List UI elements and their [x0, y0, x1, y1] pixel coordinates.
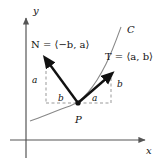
normal-horizontal-component-label: b — [58, 94, 64, 103]
tangent-vector-label: T = ⟨a, b⟩ — [105, 52, 153, 62]
point-p-label: P — [75, 115, 82, 125]
curve-label-c: C — [127, 25, 135, 35]
y-axis-label: y — [33, 6, 39, 16]
point-p-marker — [75, 100, 80, 105]
tangent-vertical-component-label: b — [117, 80, 123, 89]
tangent-horizontal-component-label: a — [92, 94, 97, 103]
vector-figure: y x C N = ⟨−b, a⟩ T = ⟨a, b⟩ a b a b P — [0, 0, 166, 166]
normal-vector-label: N = ⟨−b, a⟩ — [31, 40, 89, 50]
normal-vertical-component-label: a — [32, 76, 37, 85]
figure-canvas — [0, 0, 166, 166]
x-axis-label: x — [146, 146, 152, 156]
